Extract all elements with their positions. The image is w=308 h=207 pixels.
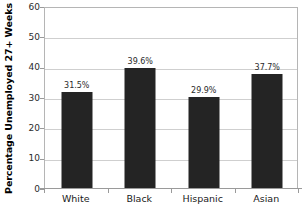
bar-value-label-hispanic: 29.9% [191, 87, 216, 95]
y-tick-mark [40, 37, 44, 38]
bar-group: 37.7% [236, 8, 300, 188]
bar-group: 39.6% [109, 8, 173, 188]
bar-asian [252, 74, 283, 188]
y-tick-mark [40, 159, 44, 160]
bar-value-label-black: 39.6% [128, 58, 153, 66]
x-tick-mark [108, 189, 109, 193]
x-tick-label-white: White [62, 194, 90, 204]
bar-white [61, 92, 92, 188]
y-tick-mark [40, 7, 44, 8]
y-tick-mark [40, 98, 44, 99]
y-tick-label-10: 10 [14, 154, 40, 163]
bar-value-label-white: 31.5% [64, 82, 89, 90]
y-tick-label-30: 30 [14, 94, 40, 103]
y-tick-label-0: 0 [14, 185, 40, 194]
y-tick-label-50: 50 [14, 33, 40, 42]
y-tick-mark [40, 128, 44, 129]
x-tick-mark [235, 189, 236, 193]
x-tick-mark [44, 189, 45, 193]
bar-group: 29.9% [172, 8, 236, 188]
x-tick-mark [298, 189, 299, 193]
x-tick-label-black: Black [126, 194, 152, 204]
bar-group: 31.5% [45, 8, 109, 188]
plot-area: 31.5%39.6%29.9%37.7% [44, 7, 298, 189]
x-tick-label-asian: Asian [253, 194, 279, 204]
bar-hispanic [188, 97, 219, 188]
x-tick-mark [171, 189, 172, 193]
y-tick-mark [40, 68, 44, 69]
bar-black [125, 68, 156, 188]
y-tick-mark [40, 189, 44, 190]
y-tick-label-20: 20 [14, 124, 40, 133]
bar-value-label-asian: 37.7% [255, 64, 280, 72]
y-tick-label-40: 40 [14, 63, 40, 72]
y-axis-tick-labels: 6050403020100 [12, 0, 40, 207]
bars-layer: 31.5%39.6%29.9%37.7% [45, 8, 297, 188]
x-tick-label-hispanic: Hispanic [183, 194, 223, 204]
y-tick-label-60: 60 [14, 3, 40, 12]
bar-chart: Percentage Unemployed 27+ Weeks 60504030… [0, 0, 308, 207]
